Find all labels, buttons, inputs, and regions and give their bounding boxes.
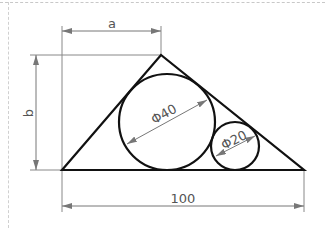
label-100: 100 — [171, 191, 196, 206]
label-b: b — [21, 109, 36, 117]
shapes — [62, 55, 304, 170]
label-diameter-20: Φ20 — [219, 127, 250, 153]
geometry-diagram: a b 100 Φ40 Φ20 — [0, 0, 325, 228]
triangle — [62, 55, 304, 170]
label-a: a — [108, 16, 116, 31]
